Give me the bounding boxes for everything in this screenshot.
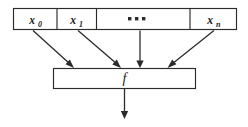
input-cell-xn-subscript: n <box>216 20 221 29</box>
input-vector-bar <box>14 9 237 30</box>
arrow-ellipsis-to-function <box>136 31 143 69</box>
input-cell-x1-base: x <box>69 14 76 26</box>
arrow-head-output <box>121 111 128 119</box>
input-cell-xn-base: x <box>206 14 213 26</box>
diagram-root: x 0 x 1 x n <box>0 0 248 127</box>
ellipsis-dot-3 <box>142 17 145 20</box>
arrow-function-to-output <box>121 89 128 120</box>
arrow-xn-to-function <box>168 31 215 69</box>
arrow-head-ellipsis <box>136 61 143 69</box>
input-cell-x0-subscript: 0 <box>38 20 42 29</box>
arrow-x1-to-function <box>78 31 121 69</box>
arrow-x0-to-function <box>33 31 74 69</box>
ellipsis-dot-1 <box>128 17 131 20</box>
arrow-head-xn <box>168 59 177 68</box>
input-cell-x1-subscript: 1 <box>79 20 83 29</box>
diagram-canvas: x 0 x 1 x n <box>0 0 248 127</box>
ellipsis-dot-2 <box>135 17 138 20</box>
input-cell-x0-base: x <box>28 14 35 26</box>
input-cell-ellipsis <box>128 17 145 20</box>
